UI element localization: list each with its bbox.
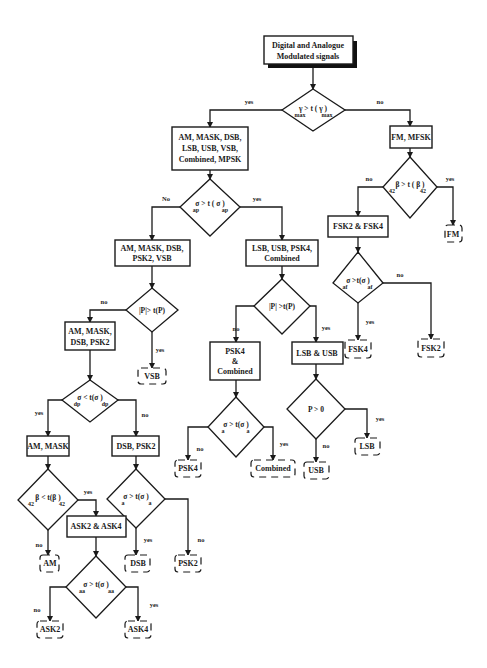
terminal-psk2: PSK2: [175, 555, 201, 572]
terminal-fsk4: FSK4: [345, 340, 371, 358]
edge-d8-no: no: [197, 445, 204, 452]
terminal-psk4-label: PSK4: [178, 464, 198, 473]
terminal-usb-label: USB: [308, 466, 324, 475]
terminal-dsb: DSB: [125, 555, 150, 572]
cond-d7-sub2: dp: [102, 401, 109, 407]
edge-d8-yes: yes: [280, 440, 289, 447]
cond-d7-sub1: dp: [74, 401, 81, 407]
cond-d11-sub2: a: [149, 500, 152, 506]
b3-line2: PSK2, VSB: [133, 254, 173, 263]
cond-d12-sub2: aa: [108, 588, 114, 594]
terminal-vsb: VSB: [138, 368, 166, 384]
terminal-psk2-label: PSK2: [178, 559, 198, 568]
cond-d12-sub1: aa: [79, 588, 85, 594]
cond-d11-sub1: a: [122, 500, 125, 506]
edge-d5-no: no: [233, 325, 240, 332]
terminal-vsb-label: VSB: [144, 372, 160, 381]
cond-d5: |P| >t(P): [269, 302, 296, 311]
terminal-fsk2: FSK2: [418, 339, 444, 357]
decision-beta42-right: β > t ( β ) 42 42: [383, 157, 437, 218]
b6-line1: AM, MASK,: [68, 327, 111, 336]
b5-line1: FSK2 & FSK4: [333, 222, 383, 231]
box-dsb-psk2: DSB, PSK2: [112, 436, 159, 456]
cond-d4: |P|> t(P): [139, 306, 166, 315]
decision-abs-p-left: |P|> t(P): [126, 288, 178, 332]
decision-sigma-ap: σ > t ( σ ) ap ap: [180, 179, 240, 236]
edge-d3-no: no: [366, 175, 373, 182]
edge-d2-yes: yes: [253, 195, 262, 202]
b4-line2: Combined: [264, 254, 300, 263]
edge-d7-no: no: [142, 411, 149, 418]
edge-d7-yes: yes: [35, 409, 44, 416]
edge-d12-no: no: [34, 606, 41, 613]
terminal-combined: Combined: [251, 460, 295, 477]
edge-d12-yes: yes: [150, 601, 159, 608]
edge-d4-no: no: [101, 298, 108, 305]
terminal-ask4-label: ASK4: [128, 625, 148, 634]
edge-d11-no: no: [198, 536, 205, 543]
b1-line1: AM, MASK, DSB,: [179, 133, 242, 142]
terminal-am-label: AM: [43, 559, 57, 568]
cond-d2: σ > t ( σ ): [195, 199, 225, 208]
edge-d1-no: no: [377, 98, 384, 105]
b2-line1: FM, MFSK: [391, 133, 431, 142]
cond-d8-sub2: a: [247, 428, 250, 434]
box-am-mask-dsb-psk2: AM, MASK, DSB, PSK2: [65, 322, 115, 350]
cond-d10: β < t(β ): [35, 493, 61, 502]
cond-d9: P > 0: [308, 405, 324, 414]
b9-line1: AM, MASK: [27, 442, 69, 451]
b6-line2: DSB, PSK2: [70, 338, 109, 347]
cond-d3-sub1: 42: [389, 188, 395, 194]
edge-d4-yes: yes: [156, 346, 165, 353]
b7-line3: Combined: [217, 367, 253, 376]
box-ask2-ask4: ASK2 & ASK4: [67, 516, 126, 537]
edge-d5-yes: yes: [322, 324, 331, 331]
decision-abs-p-right: |P| >t(P): [254, 279, 310, 334]
box-fsk2-fsk4: FSK2 & FSK4: [328, 216, 388, 237]
b1-line2: LSB, USB, VSB,: [182, 144, 238, 153]
box-am-mask-dsb-psk2-vsb: AM, MASK, DSB, PSK2, VSB: [115, 240, 190, 266]
box-psk4-combined: PSK4 & Combined: [210, 342, 260, 380]
cond-d10-sub1: 42: [28, 501, 34, 507]
edge-d11-yes: yes: [144, 536, 153, 543]
terminal-ask2-label: ASK2: [40, 625, 60, 634]
edge-d9-no: no: [323, 442, 330, 449]
edge-d6-no: no: [397, 271, 404, 278]
b7-line2: &: [232, 357, 239, 366]
root-node: Digital and Analogue Modulated signals: [264, 36, 357, 68]
b10-line1: DSB, PSK2: [116, 442, 155, 451]
cond-d3-sub2: 42: [420, 188, 426, 194]
terminal-ask2: ASK2: [37, 621, 63, 638]
b4-line1: LSB, USB, PSK4,: [252, 244, 312, 253]
edge-d10-no: no: [36, 541, 43, 548]
decision-gamma-max: γ > t ( γ ) max max: [282, 89, 345, 131]
cond-d1-sub2: max: [322, 112, 333, 118]
box-fm-mfsk: FM, MFSK: [390, 126, 432, 148]
edge-d10-yes: yes: [84, 488, 93, 495]
cond-d8-sub1: a: [222, 428, 225, 434]
terminal-combined-label: Combined: [255, 464, 291, 473]
terminal-fm-label: FM: [447, 230, 460, 239]
terminal-am: AM: [40, 555, 59, 572]
cond-d11: σ > t(σ ): [123, 492, 149, 501]
decision-p-positive: P > 0: [287, 379, 345, 439]
terminal-usb: USB: [304, 462, 329, 479]
flowchart-canvas: Digital and Analogue Modulated signals γ…: [0, 0, 487, 668]
edge-d1-yes: yes: [245, 98, 254, 105]
decision-sigma-aa: σ > t(σ ) aa aa: [66, 556, 126, 618]
box-lsb-usb: LSB & USB: [292, 342, 343, 364]
root-label-line1: Digital and Analogue: [272, 41, 344, 50]
terminal-dsb-label: DSB: [130, 559, 146, 568]
decision-sigma-a-mid: σ > t(σ ) a a: [208, 397, 264, 457]
b8-line1: LSB & USB: [296, 349, 338, 358]
b1-line3: Combined, MPSK: [179, 155, 242, 164]
cond-d12: σ > t(σ ): [83, 580, 109, 589]
b3-line1: AM, MASK, DSB,: [121, 244, 184, 253]
cond-d10-sub2: 42: [59, 501, 65, 507]
cond-d2-sub2: ap: [222, 207, 229, 213]
terminal-fsk4-label: FSK4: [348, 345, 368, 354]
cond-d1-sub1: max: [295, 112, 306, 118]
edge-d9-yes: yes: [376, 415, 385, 422]
edge-d3-yes: yes: [446, 175, 455, 182]
terminal-fsk2-label: FSK2: [421, 344, 441, 353]
